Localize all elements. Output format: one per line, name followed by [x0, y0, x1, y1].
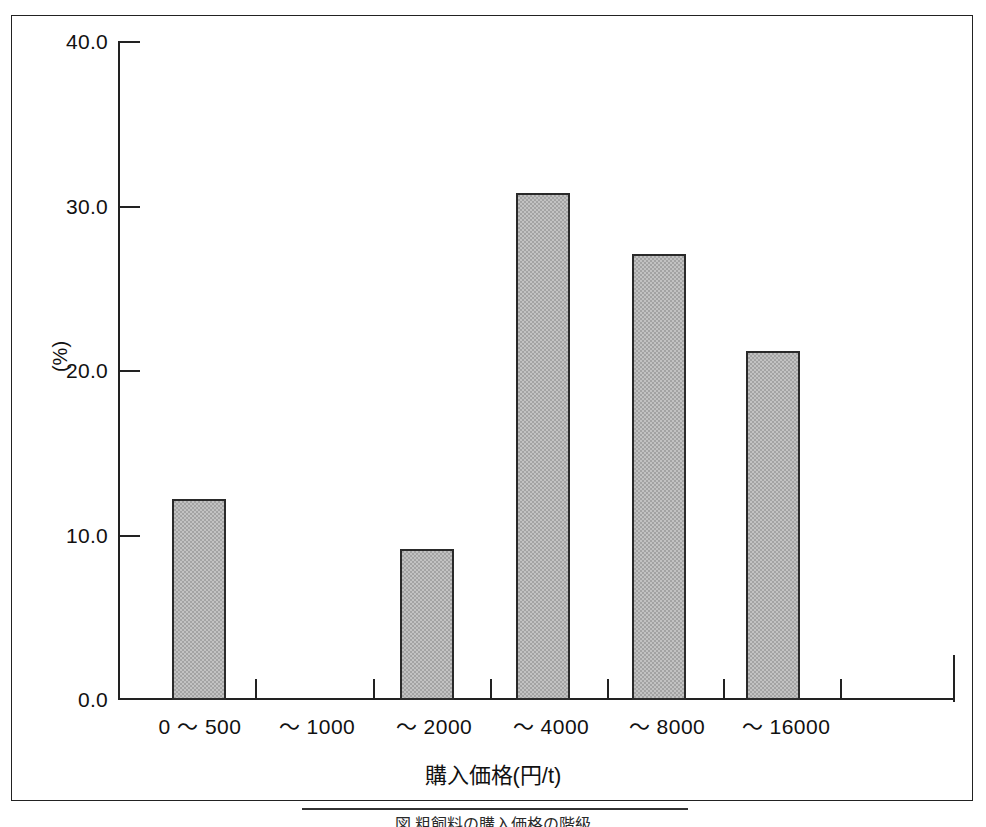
x-cat-label-1000: 〜 1000	[255, 710, 379, 740]
x-cat-label-16000: 〜 16000	[716, 710, 856, 740]
x-cat-label-0-500: 0 〜 500	[138, 710, 262, 740]
y-tick-label-0: 0.0	[20, 688, 108, 712]
x-tick-mark-4	[607, 679, 609, 700]
y-tick-label-30: 30.0	[20, 195, 108, 219]
x-cat-label-8000: 〜 8000	[605, 710, 729, 740]
bar-to-4000	[516, 193, 570, 700]
bar-to-2000	[400, 549, 454, 700]
figure-caption: 図 粗飼料の購入価格の階級	[0, 811, 986, 827]
bar-to-16000	[746, 351, 800, 700]
caption-rule	[302, 808, 688, 810]
bar-to-8000	[632, 254, 686, 700]
x-axis-title: 購入価格(円/t)	[0, 757, 986, 789]
x-tick-mark-1	[255, 679, 257, 700]
x-cat-label-2000: 〜 2000	[372, 710, 496, 740]
x-tick-mark-2	[373, 679, 375, 700]
x-cat-label-4000: 〜 4000	[489, 710, 613, 740]
x-tick-mark-5	[723, 679, 725, 700]
bar-0-500	[172, 499, 226, 700]
x-tick-mark-3	[490, 679, 492, 700]
x-tick-mark-6	[840, 679, 842, 700]
y-axis-title: (%)	[49, 327, 72, 387]
plot-right-edge	[953, 655, 955, 702]
y-tick-label-10: 10.0	[20, 524, 108, 548]
y-tick-label-40: 40.0	[20, 30, 108, 54]
figure-container: 40.0 30.0 20.0 10.0 0.0 (%) 0 〜 500 〜 10…	[0, 0, 986, 827]
